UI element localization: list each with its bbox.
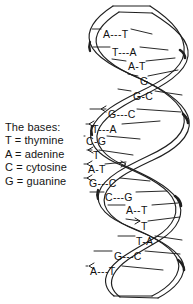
base-pair-label: G---C <box>89 178 117 189</box>
legend-heading: The bases: <box>5 121 83 134</box>
base-pair-label: T---A <box>92 124 117 135</box>
legend-entry-guanine: G = guanine <box>5 175 83 188</box>
base-pair-label: T <box>141 221 148 232</box>
base-legend: The bases: T = thymine A = adenine C = c… <box>5 121 83 188</box>
base-pair-label: A---T <box>90 266 115 277</box>
base-pair-label: T---A <box>112 47 137 58</box>
base-pair-label: T-A <box>136 236 153 247</box>
base-pair-label: A---T <box>103 29 128 40</box>
base-pair-label: C-G <box>86 136 106 147</box>
base-pair-label: C---G <box>105 192 133 203</box>
base-pair-label: A-T <box>88 164 106 175</box>
base-pair-label: G <box>140 76 148 87</box>
base-pair-label: G---C <box>108 109 136 120</box>
dna-helix-figure: A---TT---AA-TGG-CG---CT---AC-GTA-TG---CC… <box>0 0 193 304</box>
legend-entry-cytosine: C = cytosine <box>5 161 83 174</box>
legend-entry-adenine: A = adenine <box>5 148 83 161</box>
base-pair-label: G---C <box>114 251 142 262</box>
base-pair-label: A-T <box>128 61 146 72</box>
legend-entry-thymine: T = thymine <box>5 134 83 147</box>
base-pair-label: T <box>93 150 100 161</box>
base-pair-label: G-C <box>133 91 153 102</box>
base-pair-label: A--T <box>126 205 148 216</box>
